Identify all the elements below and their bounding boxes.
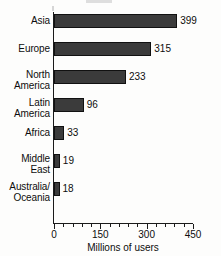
category-label-line: Australia/	[0, 182, 50, 193]
bar	[54, 42, 151, 56]
category-label-line: North	[0, 70, 50, 81]
bar	[54, 70, 126, 84]
category-label: NorthAmerica	[0, 70, 50, 91]
x-axis-minor-tick	[156, 224, 157, 227]
x-axis-tick-label: 150	[85, 229, 115, 240]
x-axis-minor-tick	[91, 224, 92, 227]
bar-row: Africa33	[0, 126, 221, 154]
x-axis-minor-tick	[82, 224, 83, 227]
bar	[54, 126, 64, 140]
x-axis-minor-tick	[110, 224, 111, 227]
bar	[54, 182, 60, 196]
category-label: Europe	[0, 44, 50, 55]
bar-value-label: 18	[63, 184, 74, 194]
category-label-line: America	[0, 109, 50, 120]
bar-row: LatinAmerica96	[0, 98, 221, 126]
category-label: MiddleEast	[0, 154, 50, 175]
x-axis-minor-tick	[119, 224, 120, 227]
bar-row: NorthAmerica233	[0, 70, 221, 98]
plot-area: Asia399Europe315NorthAmerica233LatinAmer…	[0, 0, 221, 256]
x-axis-minor-tick	[128, 224, 129, 227]
bar-value-label: 33	[67, 128, 78, 138]
x-axis-tick-label: 0	[39, 229, 69, 240]
bar-row: Europe315	[0, 42, 221, 70]
bar-row: Australia/Oceania18	[0, 182, 221, 210]
bar-chart: Asia399Europe315NorthAmerica233LatinAmer…	[0, 0, 221, 256]
x-axis-tick-label: 300	[132, 229, 162, 240]
bar-value-label: 399	[180, 16, 197, 26]
category-label-line: East	[0, 165, 50, 176]
x-axis-minor-tick	[137, 224, 138, 227]
category-label-line: America	[0, 81, 50, 92]
bar-row: MiddleEast19	[0, 154, 221, 182]
x-axis-minor-tick	[63, 224, 64, 227]
category-label-line: Asia	[0, 16, 50, 27]
bar	[54, 98, 84, 112]
x-axis-title: Millions of users	[53, 242, 193, 253]
bar	[54, 14, 177, 28]
category-label-line: Africa	[0, 128, 50, 139]
bar-value-label: 96	[87, 100, 98, 110]
category-label-line: Middle	[0, 154, 50, 165]
category-label-line: Latin	[0, 98, 50, 109]
x-axis-minor-tick	[165, 224, 166, 227]
x-axis-minor-tick	[73, 224, 74, 227]
category-label-line: Europe	[0, 44, 50, 55]
category-label: LatinAmerica	[0, 98, 50, 119]
x-axis-minor-tick	[184, 224, 185, 227]
category-label-line: Oceania	[0, 193, 50, 204]
category-label: Australia/Oceania	[0, 182, 50, 203]
bar-value-label: 19	[63, 156, 74, 166]
x-axis-tick-label: 450	[178, 229, 208, 240]
bar-value-label: 233	[129, 72, 146, 82]
category-label: Asia	[0, 16, 50, 27]
x-axis-line	[53, 223, 193, 224]
x-axis-minor-tick	[174, 224, 175, 227]
bar-value-label: 315	[154, 44, 171, 54]
bar-row: Asia399	[0, 14, 221, 42]
category-label: Africa	[0, 128, 50, 139]
bar	[54, 154, 60, 168]
